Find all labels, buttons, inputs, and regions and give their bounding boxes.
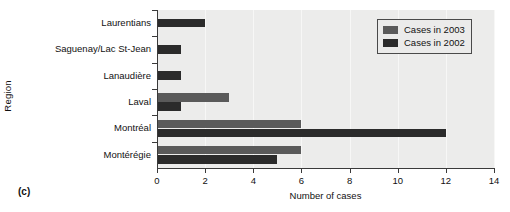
bar-2002 [157,102,181,111]
y-tick-label: Lanaudière [103,63,151,89]
chart-legend: Cases in 2003 Cases in 2002 [377,19,472,54]
y-tick-label: Laval [128,89,151,115]
x-tick-mark [350,168,351,173]
x-axis-line [157,168,494,169]
y-tick-label: Laurentians [101,10,151,36]
panel-caption: (c) [18,186,30,197]
y-axis-line [157,10,158,168]
bar-2003 [157,120,301,129]
x-tick-label: 4 [241,175,265,186]
x-tick-mark [494,168,495,173]
bar-2002 [157,129,446,138]
legend-swatch-2003 [383,26,398,34]
bar-group [157,142,494,168]
bar-2002 [157,71,181,80]
y-tick-mark [152,89,157,90]
x-tick-mark [398,168,399,173]
legend-label-2002: Cases in 2002 [404,37,465,48]
y-tick-label: Montérégie [103,142,151,168]
bar-2002 [157,155,277,164]
y-tick-mark [152,115,157,116]
x-tick-mark [253,168,254,173]
legend-item-2002: Cases in 2002 [383,36,465,49]
x-tick-mark [205,168,206,173]
x-tick-label: 12 [434,175,458,186]
x-tick-label: 6 [289,175,313,186]
bar-group [157,63,494,89]
gridline [494,10,495,168]
y-axis-tick-labels: LaurentiansSaguenay/Lac St-JeanLanaudièr… [40,10,155,168]
legend-label-2003: Cases in 2003 [404,24,465,35]
y-tick-label: Montréal [114,115,151,141]
bar-2002 [157,19,205,28]
x-tick-mark [301,168,302,173]
x-axis-title: Number of cases [157,190,494,201]
bar-group [157,115,494,141]
x-tick-label: 10 [386,175,410,186]
x-tick-label: 14 [482,175,506,186]
x-tick-label: 2 [193,175,217,186]
y-tick-mark [152,10,157,11]
bar-2003 [157,146,301,155]
legend-item-2003: Cases in 2003 [383,23,465,36]
x-tick-mark [446,168,447,173]
y-tick-mark [152,142,157,143]
y-tick-label: Saguenay/Lac St-Jean [55,36,151,62]
legend-swatch-2002 [383,39,398,47]
figure-panel-c: Region LaurentiansSaguenay/Lac St-JeanLa… [0,0,510,212]
bar-2003 [157,93,229,102]
x-tick-label: 0 [145,175,169,186]
bar-2002 [157,45,181,54]
bar-group [157,89,494,115]
x-tick-mark [157,168,158,173]
y-tick-mark [152,36,157,37]
y-axis-title: Region [2,66,16,126]
y-tick-mark [152,63,157,64]
x-tick-label: 8 [338,175,362,186]
